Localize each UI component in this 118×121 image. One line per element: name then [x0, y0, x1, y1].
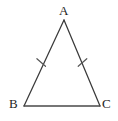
triangle-outline	[24, 20, 100, 106]
vertex-label-c: C	[102, 97, 111, 110]
side-ab-line	[24, 20, 64, 106]
geometry-figure-canvas: A B C	[0, 0, 118, 121]
vertex-label-a: A	[59, 4, 68, 17]
vertex-label-b: B	[9, 97, 18, 110]
